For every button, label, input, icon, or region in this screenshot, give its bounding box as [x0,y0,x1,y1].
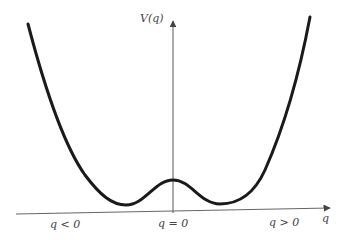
double-well-diagram [0,0,346,240]
potential-curve [28,17,310,205]
region-label-center: q = 0 [158,217,188,230]
y-axis-label: V(q) [140,12,164,25]
x-axis-label: q [322,212,329,225]
region-label-left: q < 0 [50,218,80,231]
region-label-right: q > 0 [269,216,299,229]
